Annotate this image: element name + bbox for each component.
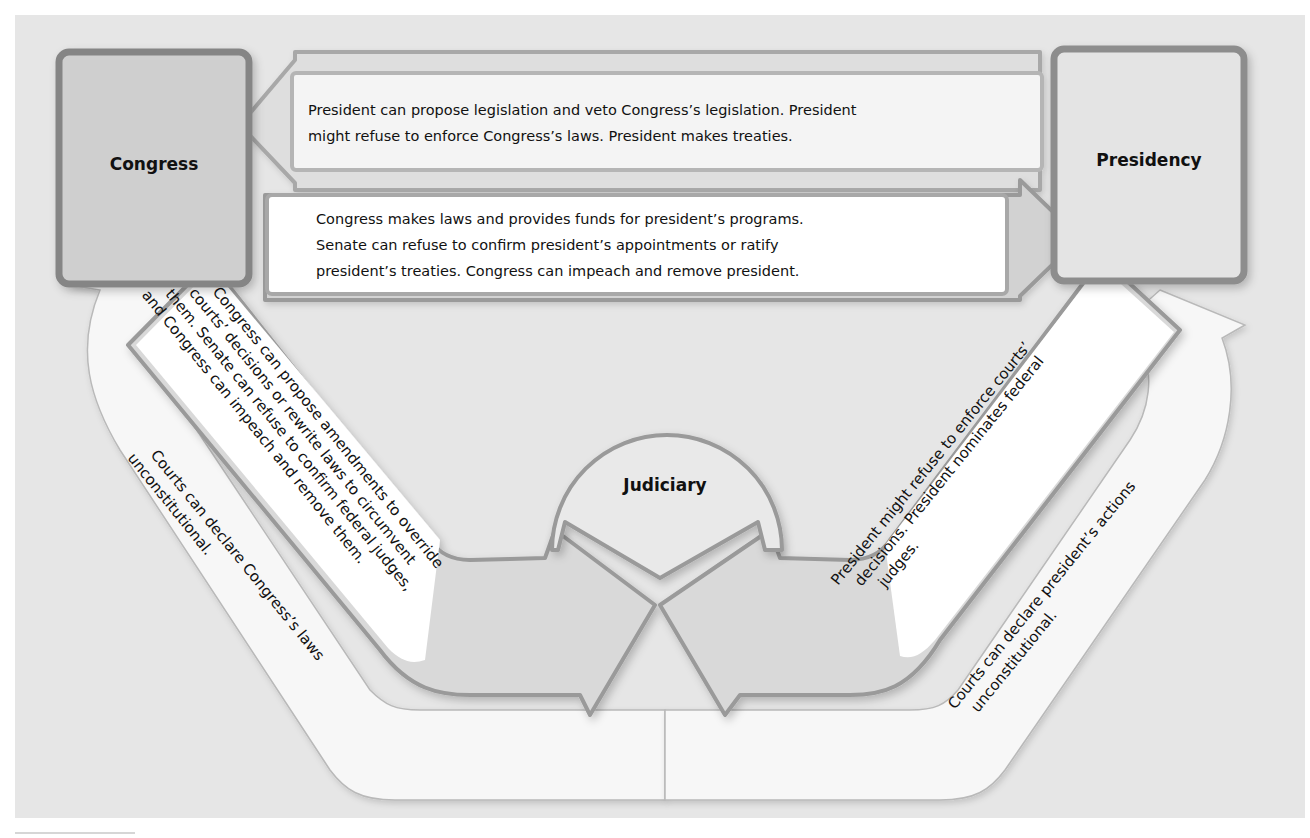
line: Congress makes laws and provides funds f… [316,211,804,227]
presidency-label: Presidency [1096,150,1201,170]
line: President can propose legislation and ve… [308,102,857,118]
arrow-president-to-congress [240,52,1042,190]
judiciary-label: Judiciary [622,475,706,495]
line: Senate can refuse to confirm president’s… [316,237,779,253]
line: might refuse to enforce Congress’s laws.… [308,128,793,144]
footer-divider [15,832,135,834]
line: president’s treaties. Congress can impea… [316,263,799,279]
checks-and-balances-diagram: Courts can declare Congress’s laws uncon… [0,0,1310,838]
text-congress-to-president: Congress makes laws and provides funds f… [316,211,804,279]
congress-label: Congress [110,154,199,174]
